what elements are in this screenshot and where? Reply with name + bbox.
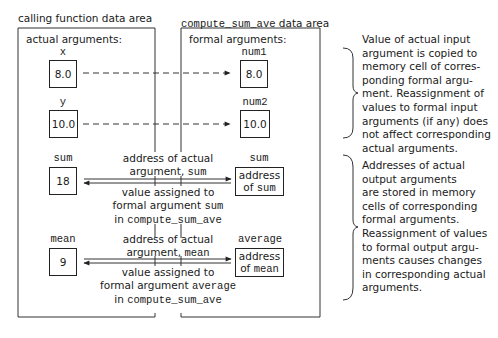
input-arguments-note: Value of actual input argument is copied… xyxy=(362,33,498,155)
var-name-num2: num2 xyxy=(240,96,270,109)
var-name-average: average xyxy=(233,233,287,246)
cell-mean: 9 xyxy=(49,248,77,276)
sum-top-label: address of actual argument, sum xyxy=(98,152,238,179)
formal-arguments-label: formal arguments: xyxy=(189,33,287,46)
output-arguments-note: Addresses of actual output arguments are… xyxy=(362,159,498,295)
sum-bottom-label: value assigned to formal argument sum in… xyxy=(98,186,238,227)
cell-formal-sum: address of sum xyxy=(235,167,284,196)
left-panel-title: calling function data area xyxy=(18,12,152,25)
cell-x: 8.0 xyxy=(49,60,77,88)
right-panel-title: compute_sum_ave data area xyxy=(181,12,329,31)
cell-num1: 8.0 xyxy=(240,60,268,88)
mean-bottom-label: value assigned to formal argument averag… xyxy=(88,266,248,307)
var-name-mean: mean xyxy=(49,233,77,246)
actual-arguments-label: actual arguments: xyxy=(26,33,122,46)
var-name-sum: sum xyxy=(49,152,77,165)
var-name-num1: num1 xyxy=(240,46,268,59)
cell-sum: 18 xyxy=(49,167,77,195)
output-brace xyxy=(343,155,358,300)
cell-y: 10.0 xyxy=(49,110,78,138)
var-name-y: y xyxy=(49,96,77,109)
var-name-x: x xyxy=(49,46,77,59)
mean-top-label: address of actual argument, mean xyxy=(98,233,238,260)
var-name-formal-sum: sum xyxy=(235,152,283,165)
input-brace xyxy=(343,48,358,138)
cell-num2: 10.0 xyxy=(240,110,270,138)
